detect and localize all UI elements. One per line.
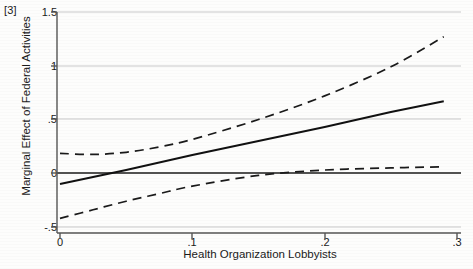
marginal-effect-line (60, 101, 444, 184)
figure-panel: [3] Marginal Effect of Federal Activitie… (0, 0, 473, 269)
lower-confidence-bound-line (60, 167, 444, 219)
y-axis (51, 12, 57, 233)
plot-canvas (0, 0, 473, 269)
x-axis (57, 233, 461, 239)
upper-confidence-bound-line (60, 37, 444, 155)
